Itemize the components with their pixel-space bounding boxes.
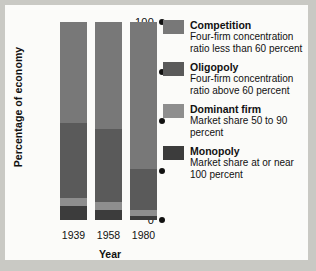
chart-figure: Percentage of economy 1007550250 1939195… [5,5,308,260]
bar-segment[interactable] [130,210,157,216]
chart-legend: CompetitionFour-firm concentration ratio… [163,19,308,187]
bar-column[interactable]: 1958 [95,5,122,260]
bar-segment[interactable] [130,22,157,169]
legend-text: MonopolyMarket share at or near 100 perc… [190,145,308,181]
legend-text: CompetitionFour-firm concentration ratio… [190,19,308,55]
legend-item[interactable]: CompetitionFour-firm concentration ratio… [163,19,308,55]
bar-stack [130,5,157,260]
bar-segment[interactable] [130,216,157,220]
bar-segment[interactable] [130,169,157,211]
legend-swatch [163,146,184,160]
y-axis-title: Percentage of economy [12,32,24,182]
x-axis-title: Year [60,248,160,260]
legend-swatch [163,20,184,34]
legend-item-label: Oligopoly [190,61,308,73]
legend-item-description: Four-firm concentration ratio less than … [190,31,308,55]
bar-segment[interactable] [95,129,122,202]
bar-column[interactable]: 1980 [130,5,157,260]
bar-segment[interactable] [60,198,87,206]
plot-area: Percentage of economy 1007550250 1939195… [5,5,165,260]
legend-text: Dominant firmMarket share 50 to 90 perce… [190,103,308,139]
bar-segment[interactable] [60,123,87,198]
legend-item-label: Competition [190,19,308,31]
x-axis-tick-label: 1980 [130,229,157,241]
legend-item[interactable]: OligopolyFour-firm concentration ratio a… [163,61,308,97]
bar-stack [95,5,122,260]
legend-item[interactable]: Dominant firmMarket share 50 to 90 perce… [163,103,308,139]
legend-item-label: Monopoly [190,145,308,157]
bar-segment[interactable] [60,22,87,123]
bar-segment[interactable] [60,206,87,220]
bar-stack [60,5,87,260]
bar-column[interactable]: 1939 [60,5,87,260]
legend-item-description: Four-firm concentration ratio above 60 p… [190,73,308,97]
legend-swatch [163,104,184,118]
bar-group: 193919581980 [60,5,165,260]
bar-segment[interactable] [95,22,122,129]
legend-item[interactable]: MonopolyMarket share at or near 100 perc… [163,145,308,181]
x-axis-tick-label: 1939 [60,229,87,241]
bar-segment[interactable] [95,210,122,220]
legend-swatch [163,62,184,76]
legend-item-description: Market share at or near 100 percent [190,157,308,181]
x-axis-tick-label: 1958 [95,229,122,241]
bar-segment[interactable] [95,202,122,210]
legend-item-description: Market share 50 to 90 percent [190,115,308,139]
legend-item-label: Dominant firm [190,103,308,115]
legend-text: OligopolyFour-firm concentration ratio a… [190,61,308,97]
